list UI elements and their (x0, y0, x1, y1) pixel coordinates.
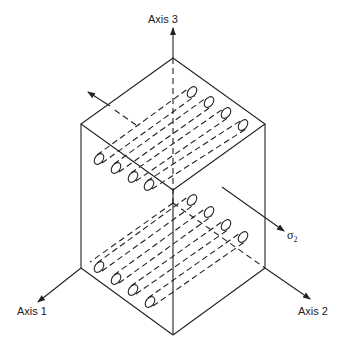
axis-1-arrow (38, 268, 81, 302)
axis-1-label: Axis 1 (17, 305, 47, 317)
axis-2-label: Axis 2 (298, 305, 328, 317)
composite-cube-diagram (0, 0, 346, 351)
sigma-subscript: 2 (293, 235, 297, 244)
fiber-layer-lower (92, 193, 250, 309)
sigma2-label: σ2 (287, 228, 297, 244)
fiber-layer-upper (92, 85, 250, 192)
axis-3-label: Axis 3 (148, 13, 178, 25)
fiber (97, 88, 195, 163)
axis-2-arrow (265, 268, 310, 299)
sigma2-arrow (222, 187, 284, 231)
back-stress-arrow (88, 92, 136, 125)
